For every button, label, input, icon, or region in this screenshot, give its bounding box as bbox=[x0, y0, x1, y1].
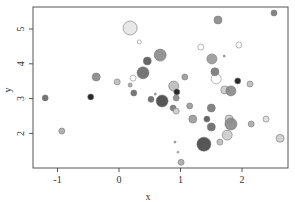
x-tick-label: 0 bbox=[117, 174, 122, 185]
data-point bbox=[143, 57, 151, 65]
x-tick-label: -1 bbox=[53, 174, 61, 185]
x-axis-ticks: -1012 bbox=[53, 168, 244, 185]
data-point bbox=[248, 121, 254, 127]
y-axis-ticks: 2345 bbox=[15, 27, 33, 136]
data-point bbox=[59, 128, 65, 134]
y-tick-label: 2 bbox=[15, 131, 26, 136]
data-point bbox=[131, 90, 137, 96]
data-point bbox=[154, 49, 166, 61]
data-point bbox=[207, 123, 215, 131]
y-tick-label: 4 bbox=[15, 61, 26, 66]
data-point bbox=[226, 86, 236, 96]
data-point bbox=[178, 159, 184, 165]
data-point bbox=[217, 139, 223, 145]
data-point bbox=[173, 108, 179, 114]
data-point bbox=[198, 44, 204, 50]
data-point bbox=[236, 42, 242, 48]
data-point bbox=[207, 104, 215, 112]
y-tick-label: 3 bbox=[15, 96, 26, 101]
data-point bbox=[182, 74, 188, 80]
data-point bbox=[130, 75, 136, 81]
data-point bbox=[263, 116, 269, 122]
data-point bbox=[189, 115, 197, 123]
data-point bbox=[235, 78, 241, 84]
data-point bbox=[128, 83, 132, 87]
data-point bbox=[137, 67, 149, 79]
data-point bbox=[174, 141, 176, 143]
x-tick-label: 1 bbox=[178, 174, 183, 185]
data-point bbox=[42, 95, 48, 101]
data-point bbox=[174, 89, 180, 95]
data-point bbox=[222, 130, 232, 140]
data-point bbox=[137, 40, 141, 44]
y-tick-label: 5 bbox=[15, 27, 26, 32]
data-point bbox=[187, 103, 193, 109]
data-point bbox=[114, 79, 120, 85]
x-axis-label: x bbox=[146, 191, 151, 202]
data-point bbox=[214, 16, 222, 24]
data-point bbox=[156, 95, 168, 107]
data-point bbox=[154, 93, 156, 95]
data-point bbox=[225, 118, 237, 130]
scatter-plot: -1012 2345 x y bbox=[0, 0, 295, 202]
data-point bbox=[197, 137, 211, 151]
data-point bbox=[173, 95, 179, 101]
y-axis-label: y bbox=[2, 88, 13, 93]
data-point bbox=[276, 134, 284, 142]
data-point bbox=[271, 10, 277, 16]
data-point bbox=[92, 73, 100, 81]
data-point bbox=[223, 55, 225, 57]
data-point bbox=[247, 81, 253, 87]
data-point bbox=[177, 151, 179, 153]
plot-frame bbox=[33, 7, 288, 168]
data-point bbox=[204, 116, 210, 122]
x-tick-label: 2 bbox=[240, 174, 245, 185]
data-point bbox=[211, 74, 221, 84]
data-point bbox=[207, 54, 217, 64]
data-point bbox=[88, 94, 94, 100]
data-point bbox=[123, 21, 137, 35]
data-point bbox=[148, 96, 154, 102]
